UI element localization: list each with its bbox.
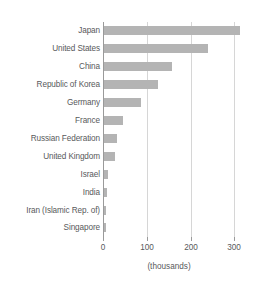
tick-label-300: 300 — [227, 243, 241, 253]
bar-israel — [104, 170, 108, 179]
bar-republic-of-korea — [104, 80, 158, 89]
category-label-russian-federation: Russian Federation — [0, 134, 100, 143]
bar-russian-federation — [104, 134, 117, 143]
tick-mark-200 — [191, 237, 192, 241]
bar-track — [104, 165, 108, 183]
bar-track — [104, 22, 240, 40]
bar-row: Japan — [0, 22, 255, 40]
bar-rows: Japan United States China Republic of Ko… — [0, 22, 255, 237]
bar-track — [104, 94, 141, 112]
bar-row: Russian Federation — [0, 129, 255, 147]
bar-row: India — [0, 183, 255, 201]
bar-row: Republic of Korea — [0, 76, 255, 94]
bar-india — [104, 188, 107, 197]
category-label-germany: Germany — [0, 98, 100, 107]
bar-row: Germany — [0, 94, 255, 112]
bar-track — [104, 76, 158, 94]
bar-united-states — [104, 44, 208, 53]
bar-japan — [104, 26, 240, 35]
tick-label-100: 100 — [140, 243, 154, 253]
bar-track — [104, 112, 123, 130]
category-label-france: France — [0, 116, 100, 125]
category-label-united-states: United States — [0, 44, 100, 53]
category-label-india: India — [0, 188, 100, 197]
bar-row: China — [0, 58, 255, 76]
bar-row: Singapore — [0, 219, 255, 237]
category-label-iran: Iran (Islamic Rep. of) — [0, 206, 100, 215]
category-label-republic-of-korea: Republic of Korea — [0, 80, 100, 89]
category-label-singapore: Singapore — [0, 223, 100, 232]
category-label-israel: Israel — [0, 170, 100, 179]
bar-chart: Japan United States China Republic of Ko… — [0, 0, 255, 297]
category-label-china: China — [0, 62, 100, 71]
bar-row: United States — [0, 40, 255, 58]
x-axis-tick-labels: 0 100 200 300 — [103, 243, 235, 255]
bar-track — [104, 219, 106, 237]
bar-track — [104, 58, 172, 76]
bar-track — [104, 147, 115, 165]
bar-france — [104, 116, 123, 125]
bar-row: Israel — [0, 165, 255, 183]
tick-label-200: 200 — [184, 243, 198, 253]
bar-track — [104, 201, 106, 219]
x-axis-label: (thousands) — [103, 262, 235, 272]
category-label-japan: Japan — [0, 26, 100, 35]
category-label-united-kingdom: United Kingdom — [0, 152, 100, 161]
bar-singapore — [104, 223, 106, 232]
bar-iran — [104, 206, 106, 215]
bar-germany — [104, 98, 141, 107]
tick-mark-0 — [103, 237, 104, 241]
bar-track — [104, 129, 117, 147]
bar-track — [104, 183, 107, 201]
bar-united-kingdom — [104, 152, 115, 161]
bar-track — [104, 40, 208, 58]
bar-china — [104, 62, 172, 71]
tick-mark-300 — [234, 237, 235, 241]
bar-row: United Kingdom — [0, 147, 255, 165]
bar-row: Iran (Islamic Rep. of) — [0, 201, 255, 219]
tick-mark-100 — [147, 237, 148, 241]
x-axis-tick-marks — [103, 237, 235, 241]
bar-row: France — [0, 112, 255, 130]
tick-label-0: 0 — [101, 243, 106, 253]
